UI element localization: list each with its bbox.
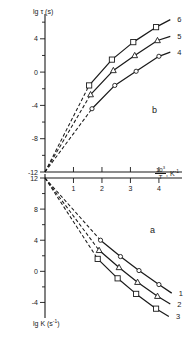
panel-label-a: a — [150, 226, 155, 235]
x-tick-label-2: 2 — [100, 185, 104, 192]
curve-label-3: 3 — [176, 312, 180, 321]
marker-4-1 — [90, 107, 94, 111]
marker-1-3 — [137, 268, 141, 272]
series-1: 1 — [45, 178, 183, 298]
x-axis-denominator: T — [155, 174, 166, 180]
y-axis-title-bottom-close: ) — [57, 320, 59, 327]
marker-3-3 — [134, 291, 139, 296]
marker-4-3 — [134, 69, 138, 73]
series-5-dashed — [45, 95, 91, 172]
marker-3-2 — [115, 276, 120, 281]
curve-label-5: 5 — [177, 32, 181, 41]
marker-6-4 — [153, 25, 158, 30]
x-tick-label-1: 1 — [72, 185, 76, 192]
curve-label-6: 6 — [177, 15, 181, 24]
x-tick-label-3: 3 — [128, 185, 132, 192]
series-4: 4 — [45, 48, 181, 172]
x-tick-label-4: 4 — [157, 185, 161, 192]
y-tick-label-b-2: -8 — [32, 135, 38, 142]
x-axis-fraction: 103 T — [155, 167, 166, 181]
y-tick-label-a-6: 8 — [34, 206, 38, 213]
marker-6-2 — [109, 57, 114, 62]
y-tick-label-a-4: 4 — [34, 237, 38, 244]
panel-label-b: b — [152, 106, 157, 115]
y-tick-label-a-2: 0 — [34, 268, 38, 275]
marker-4-4 — [157, 54, 161, 58]
marker-1-2 — [118, 254, 122, 258]
x-axis-title: 103 T , K-1 — [155, 167, 179, 181]
series-2: 2 — [45, 178, 181, 309]
curve-label-1: 1 — [179, 289, 183, 298]
panel-b: -12-8-404654 — [28, 14, 182, 176]
x-axis-unit: , K-1 — [166, 170, 179, 177]
marker-1-4 — [157, 282, 161, 286]
marker-2-4 — [155, 293, 161, 298]
y-tick-label-a-8: 12 — [30, 175, 38, 182]
series-6-dashed — [45, 85, 89, 172]
marker-6-1 — [87, 83, 92, 88]
marker-3-1 — [95, 256, 100, 261]
curve-label-4: 4 — [177, 48, 181, 57]
marker-5-2 — [110, 67, 116, 72]
panel-a: -4048121234123 — [30, 174, 183, 321]
marker-1-1 — [98, 238, 102, 242]
marker-3-4 — [153, 306, 158, 311]
y-tick-label-b-8: 4 — [34, 35, 38, 42]
y-tick-label-a-0: -4 — [32, 299, 38, 306]
marker-6-3 — [131, 40, 136, 45]
y-tick-label-b-6: 0 — [34, 69, 38, 76]
marker-4-2 — [113, 83, 117, 87]
series-5: 5 — [45, 32, 181, 172]
curve-label-2: 2 — [177, 300, 181, 309]
y-axis-title-bottom: lg K (s-1) — [33, 320, 60, 327]
figure-container: -12-8-404654-4048121234123 lg τ (s) lg K… — [0, 0, 188, 348]
marker-5-3 — [132, 52, 138, 57]
y-axis-title-top: lg τ (s) — [33, 8, 53, 15]
y-axis-title-bottom-text: lg K (s — [33, 320, 53, 327]
x-axis-numerator: 103 — [155, 167, 166, 174]
y-tick-label-b-4: -4 — [32, 102, 38, 109]
series-4-dashed — [45, 109, 92, 172]
